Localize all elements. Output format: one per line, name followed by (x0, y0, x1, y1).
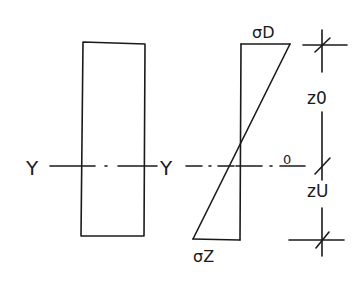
zu-label: zU (307, 181, 328, 201)
axis-label-left: Y (25, 156, 39, 180)
axis-label-right: Y (159, 156, 173, 180)
z0-label: z0 (307, 88, 327, 108)
sigma-d-label: σD (252, 23, 274, 42)
cross-section-rectangle (81, 42, 145, 236)
diagram-canvas: Y Y σD σZ 0 z0 zU (0, 0, 364, 292)
sigma-z-label: σZ (193, 247, 214, 266)
zero-label: 0 (283, 152, 291, 167)
stress-bottom-edge (193, 239, 240, 240)
